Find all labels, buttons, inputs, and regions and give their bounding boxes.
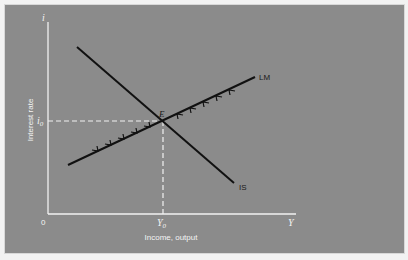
i0-label: i0: [37, 115, 44, 128]
x-axis-title: Income, output: [145, 233, 199, 242]
equilibrium-label: E: [158, 109, 165, 119]
y-axis-symbol: i: [42, 12, 45, 23]
y0-label: Y0: [157, 217, 167, 230]
is-lm-chart: i Y 0 i0 Y0 E LM IS Interest rate Income…: [0, 0, 408, 260]
origin-label: 0: [41, 218, 46, 227]
is-curve: [77, 47, 234, 183]
is-label: IS: [239, 183, 247, 192]
x-axis-symbol: Y: [288, 217, 295, 228]
lm-label: LM: [259, 73, 270, 82]
lm-arrows-right: [177, 90, 235, 119]
lm-arrows-left: [92, 122, 150, 151]
y-axis-title: Interest rate: [26, 98, 35, 141]
